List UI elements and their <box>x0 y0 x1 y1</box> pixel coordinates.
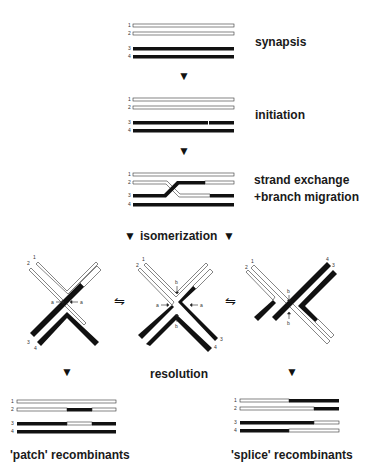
down-arrow-icon: ▼ <box>124 230 136 242</box>
strand-number: 1 <box>128 22 131 28</box>
holliday-junction-left <box>29 262 101 346</box>
strand-number: 4 <box>128 201 131 207</box>
result-label-patch: 'patch' recombinants <box>10 448 130 462</box>
strand-number: 1 <box>234 397 237 403</box>
strand-number: 3 <box>128 192 131 198</box>
down-arrow-icon: ▼ <box>178 70 190 82</box>
strand-number: 4 <box>214 344 217 350</box>
strand-number: 4 <box>234 427 237 433</box>
junction-label-b: b <box>287 320 290 326</box>
strand-number: 1 <box>251 258 254 264</box>
strand-number: 1 <box>128 96 131 102</box>
step-label-isomerization: isomerization <box>140 229 217 243</box>
strand-number: 3 <box>220 336 223 342</box>
step-label-synapsis: synapsis <box>255 35 306 49</box>
strand-number: 4 <box>34 345 37 351</box>
junction-label-b: b <box>175 279 178 285</box>
initiation-duplexes <box>133 98 234 133</box>
strand-number: 3 <box>27 339 30 345</box>
equilibrium-arrows-icon: ⇋ <box>114 295 125 308</box>
down-arrow-icon: ▼ <box>61 366 73 378</box>
equilibrium-arrows-icon: ⇋ <box>225 295 236 308</box>
down-arrow-icon: ▼ <box>286 366 298 378</box>
strand-exchange-duplexes <box>133 173 234 207</box>
down-arrow-icon: ▼ <box>178 145 190 157</box>
strand-number: 4 <box>11 428 14 434</box>
strand-number: 3 <box>234 419 237 425</box>
strand-number: 2 <box>128 179 131 185</box>
step-label-strand-exchange: strand exchange <box>254 173 349 187</box>
strand-number: 2 <box>128 104 131 110</box>
strand-number: 4 <box>326 256 329 262</box>
strand-number: 1 <box>142 256 145 262</box>
holliday-junction-middle <box>138 263 218 352</box>
step-label-resolution: resolution <box>150 367 208 381</box>
step-label-initiation: initiation <box>255 108 305 122</box>
strand-number: 3 <box>332 262 335 268</box>
strand-number: 2 <box>136 262 139 268</box>
strand-number: 1 <box>11 398 14 404</box>
strand-number: 4 <box>128 53 131 59</box>
synapsis-duplexes <box>133 24 234 59</box>
result-label-splice: 'splice' recombinants <box>231 448 353 462</box>
splice-recombinants-duplexes <box>240 399 339 433</box>
strand-number: 1 <box>33 254 36 260</box>
junction-label-a: a <box>80 299 83 305</box>
strand-number: 3 <box>11 420 14 426</box>
junction-label-b: b <box>175 323 178 329</box>
step-label-branch-migration: +branch migration <box>254 190 359 204</box>
strand-number: 2 <box>11 406 14 412</box>
strand-number: 2 <box>245 264 248 270</box>
holliday-junction-right <box>246 262 337 344</box>
strand-number: 4 <box>128 127 131 133</box>
strand-number: 2 <box>27 260 30 266</box>
junction-label-a: a <box>200 302 203 308</box>
patch-recombinants-duplexes <box>17 400 116 434</box>
strand-number: 3 <box>128 119 131 125</box>
junction-label-a: a <box>156 302 159 308</box>
strand-number: 2 <box>128 30 131 36</box>
down-arrow-icon: ▼ <box>223 230 235 242</box>
strand-number: 3 <box>128 45 131 51</box>
junction-label-b: b <box>287 288 290 294</box>
junction-label-a: a <box>51 299 54 305</box>
strand-number: 2 <box>234 405 237 411</box>
strand-number: 1 <box>128 171 131 177</box>
